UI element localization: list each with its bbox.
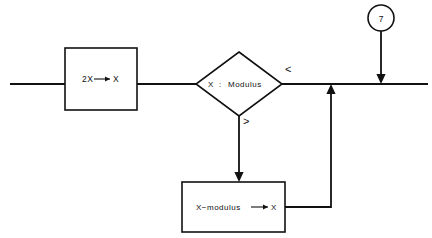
process-subtract-right-label: X [271,203,277,212]
decision-operand-right: Modulus [228,80,262,89]
flowchart-canvas: 2X X X : Modulus < > X−modulus X [0,0,432,238]
flowchart-diagram: 2X X X : Modulus < > X−modulus X [0,0,432,238]
branch-label-greater-than: > [243,115,249,127]
decision-separator: : [219,80,222,89]
process-double-left-label: 2X [82,74,94,84]
connector-arrowhead [376,74,385,84]
feedback-arrowhead [326,84,335,94]
branch-label-less-than: < [285,63,291,75]
process-double-right-label: X [113,74,119,84]
greater-than-arrowhead [234,172,243,182]
connector-label: 7 [379,14,384,24]
feedback-loop-line [285,90,331,207]
decision-operand-left: X [208,80,214,89]
process-subtract-left-label: X−modulus [196,203,241,212]
